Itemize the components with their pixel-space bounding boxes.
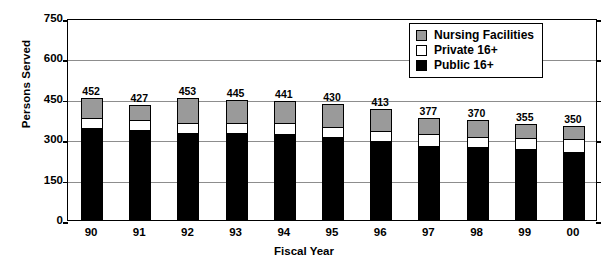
bar-90[interactable] bbox=[81, 98, 103, 220]
bar-segment-private-94 bbox=[274, 123, 296, 134]
bar-segment-nursing-93 bbox=[226, 100, 248, 123]
legend-item-nursing-facilities[interactable]: Nursing Facilities bbox=[416, 28, 534, 43]
tickmark-right-450 bbox=[596, 101, 601, 103]
y-tick-label-600: 600 bbox=[23, 53, 63, 64]
x-tick-label-96: 96 bbox=[357, 226, 403, 238]
legend: Nursing Facilities Private 16+ Public 16… bbox=[409, 23, 543, 78]
bar-segment-nursing-96 bbox=[370, 109, 392, 131]
tickmark-left-0 bbox=[63, 222, 68, 224]
bar-value-label-00: 350 bbox=[550, 114, 596, 125]
bar-segment-nursing-92 bbox=[177, 98, 199, 123]
bar-91[interactable] bbox=[129, 105, 151, 220]
legend-swatch-icon-nursing bbox=[416, 30, 427, 41]
legend-label-public: Public 16+ bbox=[434, 59, 494, 72]
bar-segment-nursing-91 bbox=[129, 105, 151, 120]
bar-segment-private-90 bbox=[81, 118, 103, 128]
bar-value-label-91: 427 bbox=[116, 93, 162, 104]
bar-segment-public-98 bbox=[467, 147, 489, 220]
bar-segment-public-93 bbox=[226, 133, 248, 220]
bar-95[interactable] bbox=[322, 104, 344, 220]
bar-segment-public-00 bbox=[563, 152, 585, 220]
bar-value-label-95: 430 bbox=[309, 92, 355, 103]
bar-94[interactable] bbox=[274, 101, 296, 220]
bar-segment-private-00 bbox=[563, 139, 585, 152]
legend-swatch-icon-public bbox=[416, 60, 427, 71]
bar-segment-private-95 bbox=[322, 127, 344, 137]
y-tick-label-300: 300 bbox=[23, 134, 63, 145]
bar-segment-public-92 bbox=[177, 133, 199, 220]
bar-segment-public-99 bbox=[515, 149, 537, 220]
x-tick-label-97: 97 bbox=[405, 226, 451, 238]
y-tick-label-450: 450 bbox=[23, 94, 63, 105]
bar-segment-nursing-90 bbox=[81, 98, 103, 118]
bar-97[interactable] bbox=[418, 118, 440, 220]
x-tick-label-92: 92 bbox=[164, 226, 210, 238]
bar-value-label-92: 453 bbox=[164, 86, 210, 97]
bar-value-label-90: 452 bbox=[68, 86, 114, 97]
bar-segment-private-91 bbox=[129, 120, 151, 130]
bar-chart: Persons Served 750 600 450 300 150 0 452… bbox=[0, 0, 608, 268]
x-tick-label-91: 91 bbox=[116, 226, 162, 238]
bar-segment-public-94 bbox=[274, 134, 296, 220]
bar-segment-public-91 bbox=[129, 130, 151, 220]
x-axis-title: Fiscal Year bbox=[0, 245, 608, 257]
x-tick-label-99: 99 bbox=[502, 226, 548, 238]
bar-segment-nursing-97 bbox=[418, 118, 440, 133]
bar-segment-private-97 bbox=[418, 134, 440, 146]
bar-93[interactable] bbox=[226, 100, 248, 220]
tickmark-right-600 bbox=[596, 60, 601, 62]
y-tick-label-0: 0 bbox=[23, 215, 63, 226]
bar-segment-public-95 bbox=[322, 137, 344, 220]
x-tick-label-93: 93 bbox=[213, 226, 259, 238]
tickmark-right-300 bbox=[596, 141, 601, 143]
bar-value-label-96: 413 bbox=[357, 97, 403, 108]
bar-segment-public-90 bbox=[81, 128, 103, 220]
legend-label-private: Private 16+ bbox=[434, 44, 498, 57]
x-tick-label-95: 95 bbox=[309, 226, 355, 238]
bar-segment-nursing-98 bbox=[467, 120, 489, 136]
bar-segment-nursing-94 bbox=[274, 101, 296, 122]
bar-segment-private-92 bbox=[177, 123, 199, 133]
x-tick-label-00: 00 bbox=[550, 226, 596, 238]
bar-segment-private-93 bbox=[226, 123, 248, 133]
bar-value-label-93: 445 bbox=[213, 88, 259, 99]
x-tick-label-90: 90 bbox=[68, 226, 114, 238]
bar-segment-public-96 bbox=[370, 141, 392, 220]
x-tick-label-94: 94 bbox=[261, 226, 307, 238]
bar-92[interactable] bbox=[177, 98, 199, 220]
legend-item-public-16plus[interactable]: Public 16+ bbox=[416, 58, 534, 73]
bar-segment-nursing-99 bbox=[515, 124, 537, 137]
x-tick-label-98: 98 bbox=[454, 226, 500, 238]
tickmark-right-150 bbox=[596, 182, 601, 184]
bar-segment-private-96 bbox=[370, 131, 392, 141]
bar-segment-private-99 bbox=[515, 138, 537, 149]
tickmark-right-0 bbox=[596, 222, 601, 224]
bar-value-label-98: 370 bbox=[454, 108, 500, 119]
legend-label-nursing: Nursing Facilities bbox=[434, 29, 534, 42]
legend-item-private-16plus[interactable]: Private 16+ bbox=[416, 43, 534, 58]
bar-value-label-94: 441 bbox=[261, 89, 307, 100]
bar-segment-nursing-95 bbox=[322, 104, 344, 127]
bar-value-label-97: 377 bbox=[405, 106, 451, 117]
bar-00[interactable] bbox=[563, 126, 585, 220]
y-tick-label-150: 150 bbox=[23, 175, 63, 186]
bar-98[interactable] bbox=[467, 120, 489, 220]
y-tick-label-750: 750 bbox=[23, 13, 63, 24]
bar-segment-private-98 bbox=[467, 137, 489, 148]
legend-swatch-icon-private bbox=[416, 45, 427, 56]
bar-99[interactable] bbox=[515, 124, 537, 220]
chart-title-cropped bbox=[0, 0, 608, 4]
bar-96[interactable] bbox=[370, 109, 392, 220]
bar-segment-public-97 bbox=[418, 146, 440, 220]
bar-segment-nursing-00 bbox=[563, 126, 585, 139]
tickmark-right-750 bbox=[596, 20, 601, 22]
bar-value-label-99: 355 bbox=[502, 112, 548, 123]
